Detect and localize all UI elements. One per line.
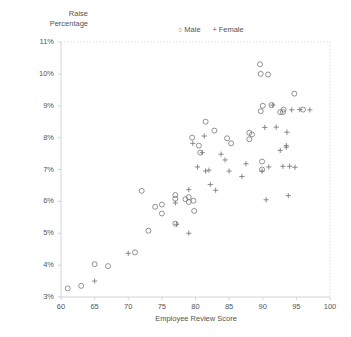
data-point-male — [146, 228, 151, 233]
data-point-female — [195, 164, 200, 169]
data-point-male — [258, 71, 263, 76]
data-points — [65, 62, 312, 291]
data-point-female — [243, 161, 248, 166]
data-point-female — [213, 188, 218, 193]
x-tick-label: 90 — [251, 302, 275, 311]
y-tick-label: 10% — [28, 69, 54, 78]
y-tick-label: 6% — [28, 196, 54, 205]
plot-frame — [61, 42, 330, 297]
data-point-female — [239, 174, 244, 179]
y-tick-label: 3% — [28, 292, 54, 301]
data-point-female — [190, 141, 195, 146]
data-point-female — [274, 125, 279, 130]
data-point-male — [192, 208, 197, 213]
data-point-female — [266, 164, 271, 169]
data-point-male — [247, 137, 252, 142]
data-point-female — [264, 197, 269, 202]
data-point-male — [132, 250, 137, 255]
data-point-male — [212, 128, 217, 133]
data-point-female — [206, 168, 211, 173]
x-tick-label: 100 — [318, 302, 342, 311]
data-point-female — [287, 164, 292, 169]
data-point-male — [92, 262, 97, 267]
data-point-female — [92, 278, 97, 283]
data-point-female — [218, 152, 223, 157]
x-tick-label: 60 — [49, 302, 73, 311]
x-tick-label: 95 — [284, 302, 308, 311]
data-point-female — [186, 231, 191, 236]
y-tick-label: 8% — [28, 133, 54, 142]
data-point-male — [186, 200, 191, 205]
data-point-female — [259, 168, 264, 173]
axis-ticks — [58, 42, 330, 300]
x-axis-title: Employee Review Score — [61, 314, 331, 323]
data-point-female — [270, 103, 275, 108]
data-point-female — [208, 182, 213, 187]
data-point-female — [292, 165, 297, 170]
data-point-female — [280, 164, 285, 169]
y-tick-label: 4% — [28, 260, 54, 269]
x-tick-label: 70 — [116, 302, 140, 311]
data-point-female — [173, 200, 178, 205]
data-point-male — [258, 109, 263, 114]
data-point-female — [203, 168, 208, 173]
data-point-female — [200, 150, 205, 155]
y-tick-label: 7% — [28, 165, 54, 174]
data-point-female — [262, 125, 267, 130]
x-tick-label: 80 — [184, 302, 208, 311]
data-point-male — [159, 202, 164, 207]
data-point-male — [106, 264, 111, 269]
scatter-chart: Raise Percentage ○Male+Female Employee R… — [0, 0, 351, 337]
data-point-male — [203, 119, 208, 124]
data-point-male — [79, 283, 84, 288]
x-tick-label: 65 — [83, 302, 107, 311]
x-tick-label: 75 — [150, 302, 174, 311]
data-point-male — [159, 211, 164, 216]
data-point-female — [126, 251, 131, 256]
data-point-female — [289, 107, 294, 112]
data-point-female — [278, 148, 283, 153]
data-point-male — [65, 286, 70, 291]
y-tick-label: 5% — [28, 228, 54, 237]
data-point-female — [307, 107, 312, 112]
data-point-male — [190, 135, 195, 140]
data-point-male — [260, 159, 265, 164]
data-point-male — [258, 62, 263, 67]
data-point-female — [286, 193, 291, 198]
data-point-female — [202, 133, 207, 138]
data-point-female — [186, 187, 191, 192]
data-point-male — [292, 91, 297, 96]
data-point-male — [260, 103, 265, 108]
data-point-male — [229, 141, 234, 146]
data-point-male — [266, 72, 271, 77]
x-tick-label: 85 — [217, 302, 241, 311]
data-point-female — [284, 130, 289, 135]
data-point-male — [191, 198, 196, 203]
data-point-male — [139, 188, 144, 193]
data-point-male — [196, 143, 201, 148]
y-tick-label: 11% — [28, 37, 54, 46]
y-tick-label: 9% — [28, 101, 54, 110]
data-point-male — [225, 136, 230, 141]
data-point-female — [222, 157, 227, 162]
data-point-female — [227, 168, 232, 173]
data-point-male — [153, 204, 158, 209]
